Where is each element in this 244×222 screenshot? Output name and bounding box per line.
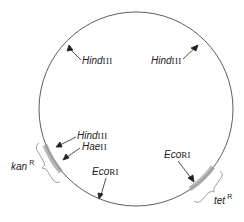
site-label-eco1: EcoRI (92, 167, 119, 177)
plasmid-map (0, 0, 244, 222)
hae-arrow (67, 148, 80, 157)
site-label-hae: HaeII (82, 142, 107, 152)
gene-label-tet: tetR (214, 193, 232, 206)
site-label-hind2: HindIII (151, 56, 181, 66)
site-label-hind1: HindIII (82, 56, 112, 66)
site-label-hind3: HindIII (77, 131, 107, 141)
eco2-arrow (178, 161, 191, 178)
kan-gene-region (45, 145, 61, 172)
eco1-arrow (101, 178, 106, 195)
hind1-arrow (70, 49, 81, 60)
site-label-eco2: EcoRI (164, 150, 191, 160)
hind3-arrow (60, 137, 76, 145)
gene-label-kan: kanR (11, 159, 34, 172)
